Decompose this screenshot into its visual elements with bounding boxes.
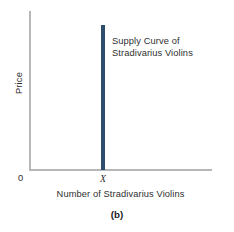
annotation-line-2: Stradivarius Violins (112, 48, 230, 60)
y-axis-title: Price (14, 58, 24, 108)
annotation-line-1: Supply Curve of (112, 36, 230, 48)
figure-panel-b: Supply Curve of Stradivarius Violins Pri… (0, 0, 234, 232)
figure-caption: (b) (0, 209, 234, 220)
plot-area: Supply Curve of Stradivarius Violins Pri… (0, 0, 234, 232)
x-axis-tick-label-x: X (96, 173, 110, 184)
supply-curve-line (101, 25, 105, 170)
supply-curve-annotation: Supply Curve of Stradivarius Violins (112, 36, 230, 59)
y-axis-line (29, 11, 31, 171)
x-axis-title: Number of Stradivarius Violins (29, 189, 212, 199)
origin-label: 0 (18, 173, 23, 183)
x-axis-line (29, 169, 212, 171)
